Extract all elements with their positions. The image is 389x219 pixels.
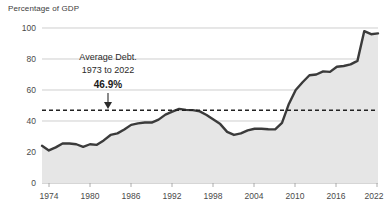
x-tick-2004: 2004 xyxy=(245,191,264,201)
x-tick-1986: 1986 xyxy=(122,191,141,201)
chart-container: Percentage of GDP 100 80 60 40 20 0 Aver… xyxy=(0,0,389,219)
y-tick-100: 100 xyxy=(22,23,36,33)
x-axis-tick-labels: 1974 1980 1986 1992 1998 2004 2010 2016 … xyxy=(40,191,384,201)
x-tick-2016: 2016 xyxy=(327,191,346,201)
x-axis-tick-marks xyxy=(49,183,377,187)
y-tick-80: 80 xyxy=(27,54,37,64)
annotation-value: 46.9% xyxy=(94,79,122,90)
x-tick-1980: 1980 xyxy=(81,191,100,201)
y-tick-40: 40 xyxy=(27,116,37,126)
x-tick-1974: 1974 xyxy=(40,191,59,201)
y-axis-tick-labels: 100 80 60 40 20 0 xyxy=(22,23,36,188)
average-debt-annotation: Average Debt. 1973 to 2022 46.9% xyxy=(79,52,136,109)
y-tick-60: 60 xyxy=(27,85,37,95)
annotation-arrow-head-icon xyxy=(104,102,112,109)
x-tick-1992: 1992 xyxy=(163,191,182,201)
y-tick-0: 0 xyxy=(31,178,36,188)
x-tick-1998: 1998 xyxy=(204,191,223,201)
annotation-label-line1: Average Debt. xyxy=(79,52,136,62)
x-tick-2022: 2022 xyxy=(365,191,384,201)
chart-plot-area: 100 80 60 40 20 0 Average Debt. 1973 to … xyxy=(0,0,389,219)
y-tick-20: 20 xyxy=(27,147,37,157)
x-tick-2010: 2010 xyxy=(286,191,305,201)
annotation-label-line2: 1973 to 2022 xyxy=(82,65,135,75)
